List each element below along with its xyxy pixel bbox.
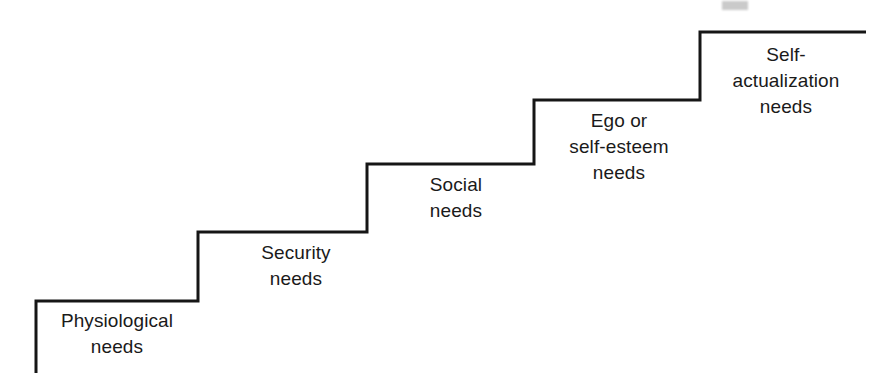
step-label-social: Social needs [376,172,536,224]
scan-artifact-smudge [722,1,748,10]
step-label-self-actualization: Self- actualization needs [702,42,870,120]
step-label-physiological: Physiological needs [22,308,212,360]
diagram-canvas: Physiological needs Security needs Socia… [0,0,888,386]
step-label-ego-self-esteem: Ego or self-esteem needs [536,108,702,186]
step-label-security: Security needs [206,240,386,292]
